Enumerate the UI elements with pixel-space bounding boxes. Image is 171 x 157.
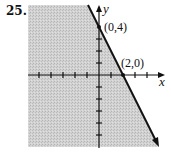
x-axis-label: x	[158, 74, 165, 89]
y-axis-label: y	[101, 1, 109, 16]
point-label-2-0: (2,0)	[121, 56, 144, 70]
point-2-0	[121, 73, 125, 77]
point-label-0-4: (0,4)	[104, 20, 127, 34]
inequality-graph: 25. x y (0,4) (2,0)	[0, 0, 171, 157]
problem-number: 25.	[6, 4, 27, 18]
point-0-4	[97, 25, 101, 29]
y-axis-arrow-icon	[96, 5, 102, 12]
shaded-region	[28, 5, 159, 147]
